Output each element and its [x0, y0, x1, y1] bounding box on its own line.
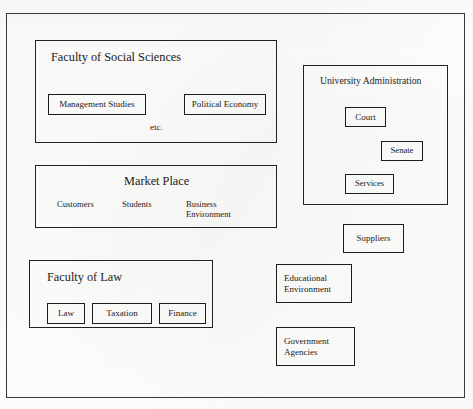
label-students: Students [122, 199, 152, 209]
label-customers: Customers [57, 199, 94, 209]
label-business-environment: Business Environment [186, 199, 231, 220]
node-political-economy[interactable]: Political Economy [184, 94, 266, 115]
node-senate[interactable]: Senate [381, 141, 423, 161]
node-educational-environment[interactable]: Educational Environment [276, 264, 352, 303]
node-court[interactable]: Court [345, 107, 386, 127]
node-suppliers[interactable]: Suppliers [343, 224, 404, 253]
node-taxation[interactable]: Taxation [92, 303, 152, 324]
group-title-market-place: Market Place [124, 174, 189, 189]
group-title-faculty-of-law: Faculty of Law [47, 270, 122, 285]
group-title-university-administration: University Administration [320, 75, 421, 86]
node-management-studies[interactable]: Management Studies [48, 94, 146, 115]
node-law[interactable]: Law [47, 303, 85, 324]
node-finance[interactable]: Finance [159, 303, 206, 324]
label-etc: etc. [150, 122, 163, 133]
diagram-canvas: Faculty of Social Sciences Management St… [0, 0, 473, 409]
node-services[interactable]: Services [345, 174, 394, 194]
node-government-agencies[interactable]: Government Agencies [276, 327, 355, 366]
group-title-faculty-of-social-sciences: Faculty of Social Sciences [51, 50, 181, 65]
